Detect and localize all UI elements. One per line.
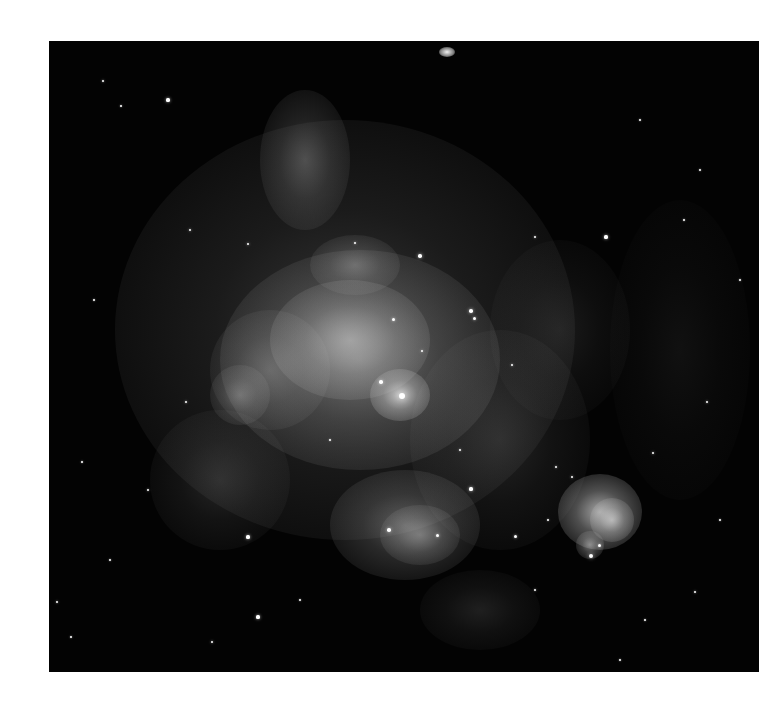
nebula-cloud (380, 505, 460, 565)
nebula-cloud (490, 240, 630, 420)
star (469, 309, 473, 313)
nebula-cloud (576, 531, 604, 559)
star (719, 519, 721, 521)
star (379, 380, 383, 384)
star (299, 599, 301, 601)
nebula-cloud (220, 250, 500, 470)
star (399, 393, 405, 399)
star (555, 466, 558, 469)
nebula-cloud (330, 470, 480, 580)
star (511, 364, 514, 367)
star (247, 243, 250, 246)
star (699, 169, 701, 171)
star (392, 318, 395, 321)
star (436, 534, 439, 537)
star (246, 535, 249, 538)
nebula-cloud (260, 90, 350, 230)
nebula-cloud (610, 200, 750, 500)
star (473, 317, 476, 320)
nebula-cloud (370, 369, 430, 421)
star (354, 242, 356, 244)
star (256, 615, 259, 618)
nebula-cloud (115, 120, 575, 540)
nebula-cloud (420, 570, 540, 650)
nebula-cloud (210, 310, 330, 430)
star (418, 254, 422, 258)
nebula-cloud (410, 330, 590, 550)
star (619, 659, 621, 661)
star (652, 452, 655, 455)
star (694, 591, 696, 593)
star (185, 401, 187, 403)
star (639, 119, 641, 121)
star (189, 229, 192, 232)
star (598, 544, 601, 547)
star (459, 449, 461, 451)
star (211, 641, 214, 644)
star (514, 535, 517, 538)
star (147, 489, 149, 491)
star (534, 589, 536, 591)
star (120, 105, 122, 107)
star (102, 80, 104, 82)
nebula-cloud (590, 498, 634, 542)
nebula-cloud (310, 235, 400, 295)
star (547, 519, 549, 521)
galaxy (439, 47, 455, 57)
nebula-cloud (270, 280, 430, 400)
nebula-cloud (210, 365, 270, 425)
image-alt-text: Grayscale astronomical image of a large … (49, 41, 50, 42)
nebula-cloud (150, 410, 290, 550)
star (166, 98, 169, 101)
star (81, 461, 83, 463)
star (109, 559, 111, 561)
star (93, 299, 95, 301)
star (56, 601, 58, 603)
star (70, 636, 72, 638)
star (387, 528, 391, 532)
star (571, 476, 574, 479)
nebula-photo: Grayscale astronomical image of a large … (49, 41, 759, 672)
star (739, 279, 741, 281)
star (604, 235, 607, 238)
star (421, 350, 424, 353)
star (644, 619, 646, 621)
star (683, 219, 685, 221)
star (469, 487, 472, 490)
star (706, 401, 709, 404)
star (589, 554, 593, 558)
star (329, 439, 331, 441)
star (534, 236, 536, 238)
nebula-cloud (558, 474, 642, 550)
